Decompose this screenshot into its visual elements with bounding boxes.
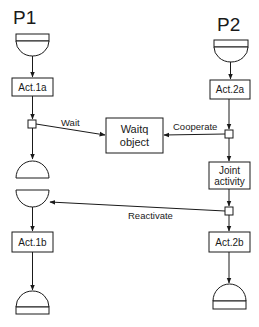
joint-activity-label-line2: activity: [214, 176, 245, 187]
p1-start-node: [16, 34, 49, 56]
p1-resume-node: [16, 190, 49, 207]
act-1b-label: Act.1b: [18, 237, 47, 248]
p1-suspend-node: [16, 161, 49, 178]
act-1a-box: Act.1a: [12, 78, 53, 96]
act-1a-label: Act.1a: [18, 82, 47, 93]
p2-cooperate-junction: [225, 130, 233, 138]
act-2a-label: Act.2a: [216, 84, 245, 95]
waitq-label-line2: object: [120, 136, 149, 148]
wait-edge-label: Wait: [61, 117, 80, 128]
act-2a-box: Act.2a: [210, 80, 250, 99]
p2-start-node: [214, 40, 248, 62]
p2-reactivate-junction: [225, 207, 233, 215]
waitq-object-box: Waitq object: [106, 118, 163, 153]
cooperate-edge: [164, 134, 225, 135]
process-label-p1: P1: [13, 7, 36, 28]
process-cooperation-diagram: P1 P2 Act.1a Wait Act.1b Waitq object: [0, 0, 259, 327]
waitq-label-line1: Waitq: [121, 123, 149, 135]
joint-activity-label-line1: Joint: [219, 165, 240, 176]
act-1b-box: Act.1b: [12, 232, 53, 252]
p1-end-node: [16, 291, 49, 314]
act-2b-label: Act.2b: [215, 237, 244, 248]
cooperate-edge-label: Cooperate: [173, 121, 217, 132]
reactivate-edge-label: Reactivate: [128, 210, 173, 221]
process-label-p2: P2: [217, 14, 240, 35]
act-2b-box: Act.2b: [209, 232, 250, 252]
p1-wait-junction: [28, 120, 36, 128]
joint-activity-box: Joint activity: [209, 162, 250, 189]
p2-end-node: [213, 284, 246, 309]
